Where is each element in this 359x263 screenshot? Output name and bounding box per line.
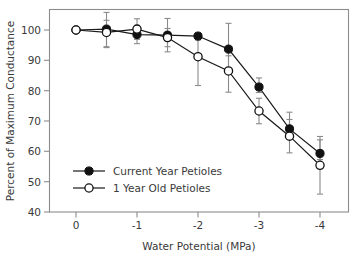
figure-background [0,0,359,263]
chart-figure: 100 90 80 70 60 50 40 0 -1 -2 -3 -4 Wate… [0,0,359,263]
y-axis-title: Percent of Maximum Conductance [4,21,16,201]
y-tick-label: 70 [28,115,41,127]
data-point-filled [224,45,232,53]
data-point-open [133,25,141,33]
y-tick-label: 50 [28,176,41,188]
legend-label: 1 Year Old Petioles [113,182,211,194]
x-tick-label: 0 [73,219,80,231]
data-point-open [255,107,263,115]
data-point-filled [316,149,324,157]
legend-label: Current Year Petioles [113,165,222,177]
x-tick-label: -2 [193,219,203,231]
y-tick-label: 100 [21,24,41,36]
data-point-open [163,33,171,41]
data-point-open [102,28,110,36]
x-axis-title: Water Potential (MPa) [142,240,255,252]
data-point-open [194,53,202,61]
data-point-open [72,26,80,34]
data-point-open [285,132,293,140]
y-tick-label: 60 [28,145,41,157]
open-circle-icon [85,184,93,192]
y-tick-label: 90 [28,54,41,66]
data-point-filled [194,32,202,40]
data-point-open [224,67,232,75]
x-tick-label: -3 [254,219,264,231]
y-tick-label: 40 [28,206,41,218]
filled-circle-icon [85,167,93,175]
data-point-filled [255,83,263,91]
x-tick-label: -1 [132,219,142,231]
data-point-open [316,161,324,169]
x-tick-label: -4 [315,219,326,231]
y-tick-label: 80 [28,85,41,97]
